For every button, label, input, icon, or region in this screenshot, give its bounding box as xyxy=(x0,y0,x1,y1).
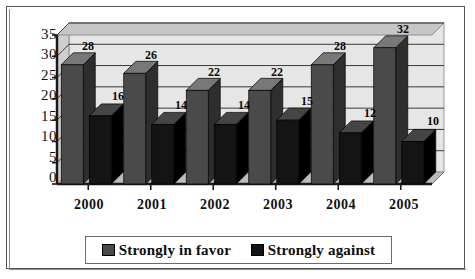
x-tick-label: 2000 xyxy=(57,197,121,213)
bar-value-label: 15 xyxy=(292,94,322,109)
bar-strongly-in-favor-front xyxy=(61,65,83,184)
plot-top-cap xyxy=(57,23,444,35)
bar-value-label: 26 xyxy=(136,48,166,63)
legend-label: Strongly against xyxy=(268,242,376,259)
x-tick-label: 2002 xyxy=(183,197,247,213)
legend-label: Strongly in favor xyxy=(119,242,231,259)
y-tick-label: 0 xyxy=(23,169,57,186)
bar-value-label: 28 xyxy=(73,39,103,54)
bar-strongly-against-side xyxy=(111,104,123,184)
y-tick-label: 15 xyxy=(23,108,57,125)
chart-frame: 35 30 25 20 15 10 5 0 2000 2001 2002 200… xyxy=(6,6,465,269)
bar-strongly-against-front xyxy=(214,124,236,184)
bar-value-label: 14 xyxy=(229,98,259,113)
bar-strongly-against-front xyxy=(339,133,361,184)
bar-value-label: 22 xyxy=(199,65,229,80)
legend-swatch-icon xyxy=(251,244,264,256)
bar-strongly-against-side xyxy=(236,112,248,184)
bar-strongly-against-front xyxy=(152,124,174,184)
bar-value-label: 22 xyxy=(262,65,292,80)
bar-value-label: 14 xyxy=(166,98,196,113)
bar-value-label: 28 xyxy=(325,39,355,54)
y-tick-label: 25 xyxy=(23,67,57,84)
bar-strongly-against-side xyxy=(299,108,311,184)
legend-swatch-icon xyxy=(102,244,115,256)
bar-chart: 35 30 25 20 15 10 5 0 2000 2001 2002 200… xyxy=(7,7,466,270)
bar-value-label: 32 xyxy=(388,22,418,37)
y-tick-label: 20 xyxy=(23,87,57,104)
bar-value-label: 16 xyxy=(103,89,133,104)
x-tick-label: 2003 xyxy=(246,197,310,213)
bar-strongly-against-side xyxy=(174,112,186,184)
y-tick-label: 10 xyxy=(23,128,57,145)
x-tick-label: 2005 xyxy=(372,197,436,213)
y-tick-label: 30 xyxy=(23,46,57,63)
bar-strongly-against-front xyxy=(277,120,299,184)
bar-value-label: 10 xyxy=(418,114,448,129)
bar-strongly-against-front xyxy=(402,141,424,184)
x-tick-label: 2001 xyxy=(120,197,184,213)
x-tick-label: 2004 xyxy=(309,197,373,213)
legend-item-strongly-in-favor: Strongly in favor xyxy=(102,242,231,259)
bar-strongly-against-front xyxy=(89,116,111,184)
chart-legend: Strongly in favor Strongly against xyxy=(85,236,392,264)
y-tick-label: 35 xyxy=(23,26,57,43)
y-tick-label: 5 xyxy=(23,149,57,166)
bar-value-label: 12 xyxy=(355,106,385,121)
legend-item-strongly-against: Strongly against xyxy=(251,242,376,259)
bar-strongly-in-favor-front xyxy=(311,65,333,184)
